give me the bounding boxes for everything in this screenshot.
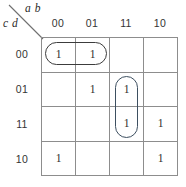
kmap-cell-r3c3[interactable]: 1: [144, 142, 178, 177]
karnaugh-map-diagram: a b c d 00 01 11 10 00 01 11 10 1 1 1 1 …: [0, 0, 186, 187]
kmap-cell-r2c1[interactable]: [76, 107, 110, 142]
row-header-3: 10: [8, 153, 36, 165]
row-header-1: 01: [8, 83, 36, 95]
column-header-2: 11: [109, 17, 143, 29]
kmap-cell-r0c3[interactable]: [144, 38, 178, 73]
column-header-3: 10: [143, 17, 177, 29]
row-header-0: 00: [8, 48, 36, 60]
kmap-cell-r0c1[interactable]: 1: [76, 38, 110, 73]
kmap-cell-r1c0[interactable]: [42, 73, 76, 108]
kmap-corner-header: a b c d: [0, 0, 46, 42]
kmap-cell-r3c0[interactable]: 1: [42, 142, 76, 177]
row-header-2: 11: [8, 118, 36, 130]
kmap-cell-r3c1[interactable]: [76, 142, 110, 177]
row-variables-label: c d: [3, 17, 18, 29]
kmap-cell-r1c2[interactable]: 1: [110, 73, 144, 108]
kmap-grid: 1 1 1 1 1 1 1 1: [41, 37, 178, 176]
column-header-0: 00: [41, 17, 75, 29]
kmap-cell-r1c1[interactable]: 1: [76, 73, 110, 108]
kmap-cell-r1c3[interactable]: [144, 73, 178, 108]
kmap-cell-r0c2[interactable]: [110, 38, 144, 73]
kmap-cell-r0c0[interactable]: 1: [42, 38, 76, 73]
kmap-cell-r2c3[interactable]: 1: [144, 107, 178, 142]
kmap-cell-r3c2[interactable]: [110, 142, 144, 177]
column-header-1: 01: [75, 17, 109, 29]
column-variables-label: a b: [25, 2, 41, 14]
kmap-cell-r2c0[interactable]: [42, 107, 76, 142]
kmap-cell-r2c2[interactable]: 1: [110, 107, 144, 142]
